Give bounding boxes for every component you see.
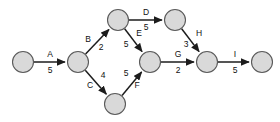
edge-weight-f: 5 (124, 68, 129, 78)
edge-weight-c: 4 (101, 70, 106, 80)
graph-node[interactable] (252, 52, 273, 73)
graph-node[interactable] (165, 10, 186, 31)
graph-node[interactable] (13, 52, 34, 73)
graph-node[interactable] (68, 52, 89, 73)
edge-label-f: F (134, 80, 139, 90)
edge-weight-i: 5 (233, 65, 238, 75)
edge-label-h: H (196, 28, 202, 38)
graph-node[interactable] (140, 52, 161, 73)
graph-node[interactable] (105, 94, 126, 115)
edge-weight-a: 5 (48, 65, 53, 75)
edge-label-g: G (175, 49, 182, 59)
edge-label-d: D (143, 7, 149, 17)
edge-label-e: E (136, 28, 142, 38)
edge-weight-g: 2 (176, 65, 181, 75)
edge-label-b: B (85, 34, 91, 44)
diagram-canvas: A5B2C4D5E5F5G2H3I5 (0, 0, 280, 122)
edge-weight-d: 5 (144, 22, 149, 32)
graph-node[interactable] (197, 52, 218, 73)
edge-weight-b: 2 (99, 42, 104, 52)
edge-weight-h: 3 (184, 39, 189, 49)
edge-label-a: A (47, 49, 53, 59)
graph-svg: A5B2C4D5E5F5G2H3I5 (0, 0, 280, 122)
graph-node[interactable] (108, 10, 129, 31)
edge-label-i: I (234, 49, 236, 59)
edge-label-c: C (87, 80, 93, 90)
edge-weight-e: 5 (124, 39, 129, 49)
